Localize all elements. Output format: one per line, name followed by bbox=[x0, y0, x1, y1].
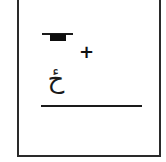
filled-block bbox=[50, 34, 66, 41]
baseline-rule bbox=[41, 105, 142, 107]
plus-sign: + bbox=[79, 45, 93, 59]
card-frame bbox=[17, 0, 161, 157]
letter-glyph: ځ bbox=[44, 62, 68, 96]
